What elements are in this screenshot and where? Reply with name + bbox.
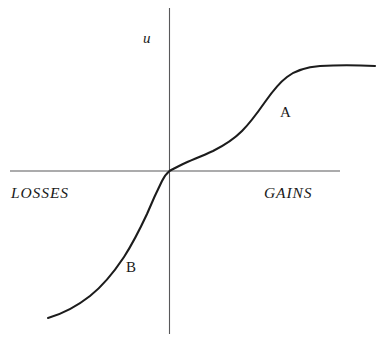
gains-region-label: GAINS bbox=[264, 185, 312, 201]
point-b-label: B bbox=[126, 260, 136, 275]
value-function-curve bbox=[48, 65, 375, 318]
figure-canvas bbox=[0, 0, 385, 337]
losses-region-label: LOSSES bbox=[11, 185, 69, 201]
point-a-label: A bbox=[280, 105, 291, 120]
y-axis-label: u bbox=[143, 31, 151, 46]
value-function-figure: u LOSSES GAINS A B bbox=[0, 0, 385, 337]
